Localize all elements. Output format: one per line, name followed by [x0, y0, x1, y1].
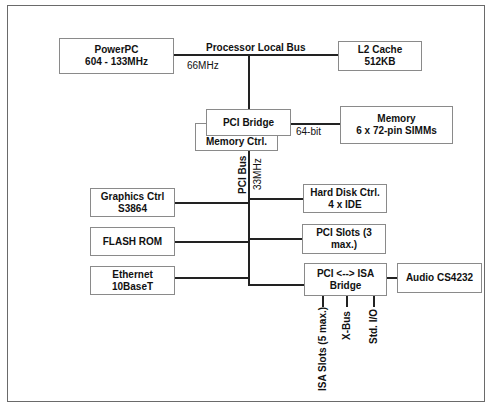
pci-bus-label: PCI Bus — [237, 156, 248, 194]
plb-line — [173, 54, 339, 56]
pci-slots-label: PCI Slots (3 max.) — [303, 227, 385, 251]
hdd-config: 4 x IDE — [328, 199, 361, 211]
l2cache-size: 512KB — [364, 56, 395, 68]
flash-label: FLASH ROM — [103, 236, 162, 248]
ethernet-label: Ethernet — [112, 269, 153, 281]
isa-bridge-link — [248, 284, 305, 286]
flash-box: FLASH ROM — [90, 227, 175, 256]
ethernet-box: Ethernet 10BaseT — [90, 266, 175, 295]
powerpc-box: PowerPC 604 - 133MHz — [59, 38, 174, 74]
isa-bridge-label-2: Bridge — [330, 280, 362, 292]
plb-label: Processor Local Bus — [206, 42, 305, 53]
powerpc-speed: 604 - 133MHz — [85, 56, 148, 68]
pci-slots-box: PCI Slots (3 max.) — [302, 224, 386, 254]
audio-label: Audio CS4232 — [406, 272, 473, 284]
mem-width-label: 64-bit — [296, 126, 321, 137]
graphics-label: Graphics Ctrl — [101, 191, 164, 203]
l2cache-label: L2 Cache — [358, 44, 402, 56]
hdd-box: Hard Disk Ctrl. 4 x IDE — [303, 184, 387, 213]
isa-slots-line — [322, 295, 324, 307]
pci-bridge-box: PCI Bridge — [206, 109, 291, 136]
hdd-label: Hard Disk Ctrl. — [310, 187, 379, 199]
pci-slots-link — [248, 238, 303, 240]
pci-bridge-label: PCI Bridge — [223, 117, 274, 129]
stdio-label: Std. I/O — [368, 309, 379, 344]
audio-box: Audio CS4232 — [397, 263, 482, 293]
graphics-box: Graphics Ctrl S3864 — [90, 188, 175, 217]
hdd-link — [248, 198, 304, 200]
plb-drop-line — [248, 54, 250, 110]
stdio-line — [373, 295, 375, 307]
xbus-line — [346, 295, 348, 307]
memory-ctrl-label: Memory Ctrl. — [206, 136, 267, 148]
flash-link — [174, 241, 249, 243]
isa-bridge-box: PCI <--> ISA Bridge — [304, 263, 387, 296]
ethernet-link — [174, 277, 249, 279]
pci-speed-label: 33MHz — [252, 158, 263, 190]
plb-speed-label: 66MHz — [187, 60, 219, 71]
mem-line — [290, 123, 341, 125]
memory-config: 6 x 72-pin SIMMs — [356, 125, 437, 137]
graphics-link — [174, 202, 249, 204]
memory-label: Memory — [377, 113, 415, 125]
l2cache-box: L2 Cache 512KB — [338, 41, 422, 71]
pci-bus-line — [248, 150, 250, 285]
graphics-chip: S3864 — [118, 203, 147, 215]
isa-slots-label: ISA Slots (5 max.) — [317, 307, 328, 391]
memory-box: Memory 6 x 72-pin SIMMs — [340, 106, 453, 144]
ethernet-type: 10BaseT — [112, 281, 153, 293]
isa-bridge-label: PCI <--> ISA — [317, 268, 374, 280]
powerpc-label: PowerPC — [95, 44, 139, 56]
xbus-label: X-Bus — [341, 311, 352, 340]
